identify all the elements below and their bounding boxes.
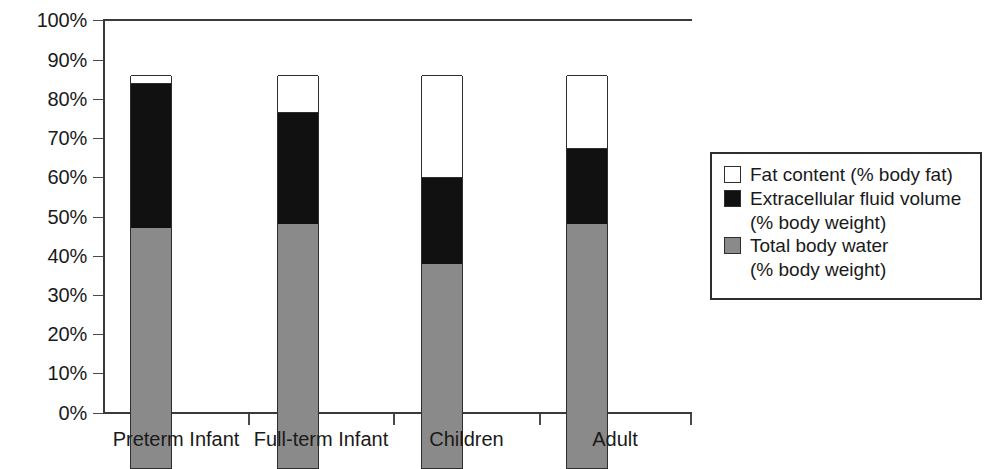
segment-fat-content-preterm <box>131 75 171 83</box>
y-tick-20 <box>93 334 103 335</box>
segment-fat-content-fullterm <box>278 75 318 112</box>
y-axis-label-100: 100% <box>7 10 87 30</box>
y-axis-label-40: 40% <box>7 246 87 266</box>
y-axis-label-90: 90% <box>7 50 87 70</box>
bar-full-term-infant[interactable] <box>277 76 319 469</box>
legend-swatch-total-body-water-icon <box>724 237 741 254</box>
legend-label-extracellular-fluid-line2: (% body weight) <box>750 211 980 234</box>
legend-label-total-body-water-line2: (% body weight) <box>750 258 980 281</box>
legend-label-total-body-water: Total body water <box>750 234 888 257</box>
y-tick-10 <box>93 373 103 374</box>
y-axis-label-20: 20% <box>7 324 87 344</box>
y-axis-line <box>103 20 105 414</box>
x-tick-separator-2 <box>393 414 395 425</box>
legend-item-total-body-water: Total body water <box>724 234 980 257</box>
x-axis-label-full-term-infant: Full-term Infant <box>249 428 393 450</box>
y-tick-90 <box>93 60 103 61</box>
y-axis-label-30: 30% <box>7 285 87 305</box>
y-tick-80 <box>93 99 103 100</box>
segment-extracellular-fluid-children <box>422 177 462 263</box>
x-tick-separator-4 <box>690 414 692 425</box>
y-tick-100 <box>93 20 103 21</box>
bar-preterm-infant[interactable] <box>130 76 172 469</box>
y-tick-70 <box>93 138 103 139</box>
chart-legend: Fat content (% body fat) Extracellular f… <box>710 152 982 300</box>
x-tick-separator-1 <box>248 414 250 425</box>
x-axis-label-adult: Adult <box>540 428 690 450</box>
segment-fat-content-children <box>422 75 462 177</box>
y-axis-label-0: 0% <box>7 403 87 423</box>
y-axis-label-70: 70% <box>7 128 87 148</box>
x-axis-label-preterm-infant: Preterm Infant <box>104 428 248 450</box>
y-axis-label-60: 60% <box>7 167 87 187</box>
y-tick-30 <box>93 295 103 296</box>
segment-fat-content-adult <box>567 75 607 148</box>
x-tick-separator-3 <box>539 414 541 425</box>
segment-extracellular-fluid-fullterm <box>278 112 318 224</box>
legend-item-extracellular-fluid: Extracellular fluid volume <box>724 187 980 210</box>
y-tick-60 <box>93 177 103 178</box>
bar-children[interactable] <box>421 76 463 469</box>
y-tick-40 <box>93 256 103 257</box>
plot-top-rule <box>103 19 692 21</box>
y-tick-50 <box>93 217 103 218</box>
y-tick-0 <box>93 413 103 414</box>
legend-swatch-fat-content-icon <box>724 166 741 183</box>
x-axis-label-children: Children <box>394 428 539 450</box>
legend-label-extracellular-fluid: Extracellular fluid volume <box>750 187 961 210</box>
segment-extracellular-fluid-adult <box>567 148 607 225</box>
y-axis-label-50: 50% <box>7 207 87 227</box>
legend-swatch-extracellular-fluid-icon <box>724 190 741 207</box>
y-axis-label-80: 80% <box>7 89 87 109</box>
legend-label-fat-content: Fat content (% body fat) <box>750 163 953 186</box>
segment-extracellular-fluid-preterm <box>131 83 171 228</box>
bar-adult[interactable] <box>566 76 608 469</box>
y-axis-label-10: 10% <box>7 363 87 383</box>
legend-item-fat-content: Fat content (% body fat) <box>724 163 980 186</box>
stacked-bar-chart: 0% 10% 20% 30% 40% 50% 60% 70% 80% 90% 1… <box>0 0 1000 469</box>
